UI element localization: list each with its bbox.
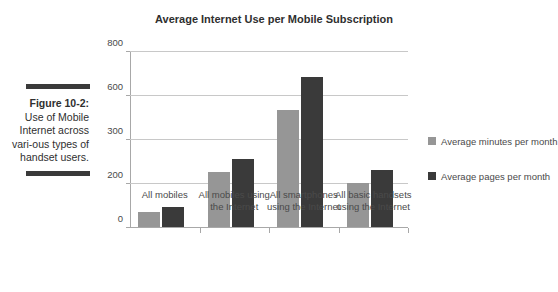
bar <box>162 207 184 227</box>
x-axis-category-label: All basic handsets using the Internet <box>333 189 415 213</box>
legend-item: Average pages per month <box>428 171 540 182</box>
legend-label: Average pages per month <box>441 171 550 182</box>
figure-caption-text: Figure 10-2: Use of Mobile Internet acro… <box>8 97 90 165</box>
x-axis-tick-mark <box>269 228 270 233</box>
bar <box>138 212 160 227</box>
legend-item: Average minutes per month <box>428 136 540 147</box>
figure-caption-label: Figure 10-2: <box>8 97 89 111</box>
x-axis-tick-mark <box>408 228 409 233</box>
legend-swatch <box>428 172 436 180</box>
y-axis-tick-label: 800 <box>107 36 123 47</box>
caption-rule-bottom <box>26 171 90 176</box>
legend-swatch <box>428 137 436 145</box>
chart-panel: Average Internet Use per Mobile Subscrip… <box>96 6 542 292</box>
chart-title: Average Internet Use per Mobile Subscrip… <box>140 12 408 26</box>
y-axis-tick-label: 200 <box>107 168 123 179</box>
y-axis-tick-label: 600 <box>107 80 123 91</box>
x-axis-tick-mark <box>200 228 201 233</box>
figure-caption-block: Figure 10-2: Use of Mobile Internet acro… <box>8 84 90 176</box>
figure-caption-body: Use of Mobile Internet across vari-ous t… <box>8 111 89 165</box>
chart-legend: Average minutes per monthAverage pages p… <box>428 136 540 206</box>
caption-rule-top <box>26 84 90 89</box>
x-axis-tick-mark <box>339 228 340 233</box>
y-axis-tick-mark <box>126 227 130 228</box>
legend-label: Average minutes per month <box>441 136 558 147</box>
y-axis-tick-label: 0 <box>118 212 123 223</box>
y-axis-tick-label: 300 <box>107 124 123 135</box>
